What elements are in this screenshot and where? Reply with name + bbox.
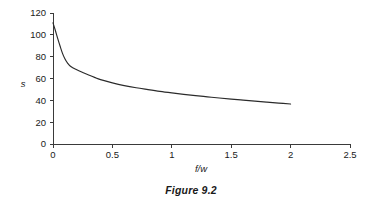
x-tick-label: 1.5 [225,149,238,160]
x-tick-label: 1 [169,149,174,160]
y-tick-label: 100 [30,29,46,40]
line-chart: 020406080100120 00.511.522.5 s f/w [0,0,382,210]
figure-container: 020406080100120 00.511.522.5 s f/w Figur… [0,0,382,210]
x-tick-label: 2.5 [343,149,356,160]
figure-caption: Figure 9.2 [0,184,382,196]
y-tick-label: 40 [35,95,46,106]
x-tick-label: 0.5 [106,149,119,160]
x-axis-label: f/w [195,163,208,174]
y-tick-label: 80 [35,51,46,62]
y-axis-label: s [21,78,26,89]
y-tick-label: 120 [30,7,46,18]
y-tick-label: 60 [35,73,46,84]
y-tick-label: 0 [41,138,46,149]
x-tick-label: 2 [288,149,293,160]
chart-background [0,0,382,210]
x-tick-label: 0 [50,149,55,160]
y-tick-label: 20 [35,117,46,128]
